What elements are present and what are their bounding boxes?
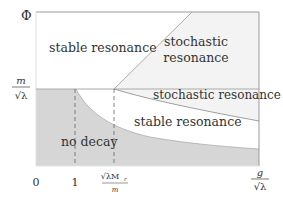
label-no-decay: no decay bbox=[61, 134, 118, 149]
x-tick-mr: √λM r m bbox=[101, 172, 128, 194]
x-tick-mr-den: m bbox=[112, 186, 119, 194]
x-axis-label: g √λ bbox=[251, 167, 269, 192]
x-tick-1: 1 bbox=[72, 176, 79, 189]
label-stable-upper: stable resonance bbox=[49, 40, 157, 55]
phase-diagram: stable resonance stochastic resonance st… bbox=[0, 0, 283, 200]
x-tick-mr-sub: r bbox=[124, 176, 127, 182]
x-axis-den: √λ bbox=[254, 181, 267, 192]
x-tick-0: 0 bbox=[33, 176, 40, 189]
x-tick-mr-num: √λM bbox=[101, 172, 119, 181]
label-stochastic-band: stochastic resonance bbox=[153, 88, 281, 102]
y-axis-label: Φ bbox=[21, 8, 32, 23]
y-tick-num: m bbox=[16, 75, 25, 86]
x-axis-num: g bbox=[257, 167, 263, 178]
y-tick-den: √λ bbox=[15, 90, 28, 101]
label-stochastic-upper-1: stochastic bbox=[164, 34, 228, 49]
label-stochastic-upper-2: resonance bbox=[163, 50, 228, 65]
label-stable-lower: stable resonance bbox=[134, 114, 242, 129]
